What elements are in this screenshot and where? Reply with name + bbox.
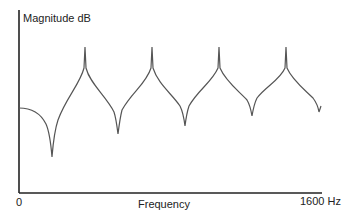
chart-plot [0, 0, 356, 220]
x-tick-max: 1600 Hz [300, 196, 341, 207]
x-axis-label: Frequency [138, 199, 190, 210]
y-axis-label: Magnitude dB [23, 13, 91, 24]
x-tick-min: 0 [16, 197, 22, 208]
magnitude-curve [19, 47, 321, 157]
